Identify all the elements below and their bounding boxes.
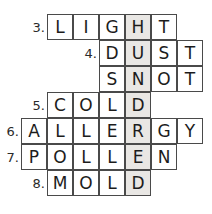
- cell-r2-c6[interactable]: T: [177, 66, 203, 92]
- cell-r5-c2[interactable]: L: [73, 144, 99, 170]
- cell-r4-c1[interactable]: L: [47, 118, 73, 144]
- cell-r6-c4[interactable]: D: [125, 170, 151, 196]
- cell-r4-c4[interactable]: R: [125, 118, 151, 144]
- row-number-light: 3.: [21, 14, 47, 40]
- cell-r1-c5[interactable]: S: [151, 40, 177, 66]
- cell-r2-c4[interactable]: N: [125, 66, 151, 92]
- cell-r4-c2[interactable]: L: [73, 118, 99, 144]
- cell-r0-c5[interactable]: T: [151, 14, 177, 40]
- cell-r2-c3[interactable]: S: [99, 66, 125, 92]
- cell-r6-c1[interactable]: M: [47, 170, 73, 196]
- cell-r0-c1[interactable]: L: [47, 14, 73, 40]
- row-number-pollen: 7.: [0, 144, 21, 170]
- cell-r4-c3[interactable]: E: [99, 118, 125, 144]
- row-number-dust: 4.: [73, 40, 99, 66]
- cell-r3-c1[interactable]: C: [47, 92, 73, 118]
- cell-r5-c3[interactable]: L: [99, 144, 125, 170]
- cell-r1-c4[interactable]: U: [125, 40, 151, 66]
- cell-r4-c0[interactable]: A: [21, 118, 47, 144]
- cell-r4-c6[interactable]: Y: [177, 118, 203, 144]
- cell-r6-c3[interactable]: L: [99, 170, 125, 196]
- cell-r5-c0[interactable]: P: [21, 144, 47, 170]
- row-number-mold: 8.: [21, 170, 47, 196]
- cell-r5-c1[interactable]: O: [47, 144, 73, 170]
- row-number-cold: 5.: [21, 92, 47, 118]
- cell-r1-c3[interactable]: D: [99, 40, 125, 66]
- cell-r0-c3[interactable]: G: [99, 14, 125, 40]
- cell-r5-c5[interactable]: N: [151, 144, 177, 170]
- crossword-puzzle: 3.LIGHT4.DUSTSNOT5.COLD6.ALLERGY7.POLLEN…: [0, 0, 212, 214]
- cell-r3-c3[interactable]: L: [99, 92, 125, 118]
- cell-r2-c5[interactable]: O: [151, 66, 177, 92]
- cell-r0-c4[interactable]: H: [125, 14, 151, 40]
- row-number-allergy: 6.: [0, 118, 21, 144]
- cell-r5-c4[interactable]: E: [125, 144, 151, 170]
- cell-r4-c5[interactable]: G: [151, 118, 177, 144]
- cell-r0-c2[interactable]: I: [73, 14, 99, 40]
- cell-r3-c2[interactable]: O: [73, 92, 99, 118]
- cell-r1-c6[interactable]: T: [177, 40, 203, 66]
- cell-r6-c2[interactable]: O: [73, 170, 99, 196]
- cell-r3-c4[interactable]: D: [125, 92, 151, 118]
